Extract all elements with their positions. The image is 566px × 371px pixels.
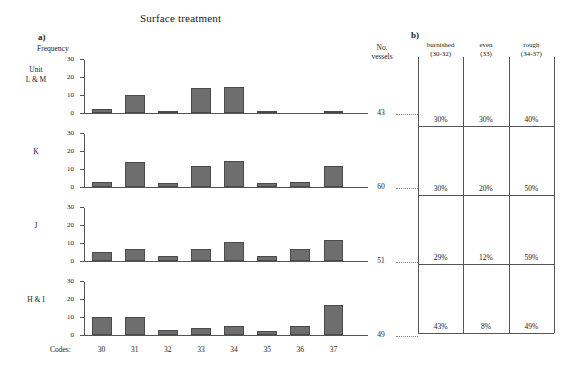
column-header-name: even — [463, 41, 508, 50]
bar — [290, 182, 310, 187]
x-axis-line — [84, 335, 368, 336]
page-title: Surface treatment — [140, 12, 221, 24]
column-header-name: burnished — [418, 41, 463, 50]
y-tick: 30 — [80, 207, 84, 208]
connector-line — [396, 336, 418, 337]
percentage-cell: 12% — [463, 253, 508, 262]
bar-slot — [118, 208, 151, 261]
plot-area: 0102030 — [84, 208, 350, 262]
x-axis-line — [84, 261, 368, 262]
table-row: 30%30%40% — [418, 115, 554, 124]
y-tick: 30 — [80, 281, 84, 282]
bar-chart-unit-0: UnitL & M010203043 — [0, 57, 410, 119]
bar — [92, 252, 112, 261]
bar — [158, 111, 178, 113]
y-tick-label: 10 — [58, 169, 74, 170]
codes-label: Codes: — [50, 345, 71, 354]
y-tick-label: 0 — [58, 113, 74, 114]
y-tick: 0 — [80, 187, 84, 188]
bar-slot — [118, 282, 151, 335]
bar — [92, 182, 112, 187]
x-tick-label: 37 — [317, 345, 350, 354]
bar-slot — [85, 282, 118, 335]
percentage-cell: 50% — [509, 184, 554, 193]
unit-row-label-line1: K — [14, 147, 58, 157]
y-tick: 0 — [80, 335, 84, 336]
bar — [125, 249, 145, 261]
bar-slot — [317, 134, 350, 187]
percentage-cell: 30% — [418, 184, 463, 193]
bar-slot — [317, 208, 350, 261]
percentage-cell: 49% — [509, 322, 554, 331]
y-tick-label: 20 — [58, 225, 74, 226]
y-tick: 10 — [80, 169, 84, 170]
y-tick-label: 30 — [58, 281, 74, 282]
y-tick: 0 — [80, 113, 84, 114]
y-tick-label: 30 — [58, 207, 74, 208]
bar-slot — [317, 60, 350, 113]
bar-group — [85, 134, 350, 187]
bar-slot — [251, 208, 284, 261]
y-tick: 20 — [80, 77, 84, 78]
percentage-cell: 40% — [509, 115, 554, 124]
unit-row-label: J — [14, 221, 58, 231]
connector-line — [396, 188, 418, 189]
connector-line — [396, 262, 418, 263]
bar — [324, 111, 344, 113]
bar — [257, 331, 277, 335]
bar-slot — [284, 60, 317, 113]
bar — [191, 328, 211, 335]
y-tick: 30 — [80, 59, 84, 60]
no-vessels-value: 49 — [366, 330, 396, 339]
panel-b-table: 30%30%40%30%20%50%29%12%59%43%8%49% — [418, 57, 554, 333]
codes-axis: 3031323334353637 — [85, 345, 350, 354]
y-tick-label: 20 — [58, 299, 74, 300]
bar — [92, 109, 112, 113]
y-tick: 10 — [80, 95, 84, 96]
unit-row-label: K — [14, 147, 58, 157]
table-horizontal-rule — [418, 195, 554, 196]
y-tick: 20 — [80, 151, 84, 152]
y-tick: 20 — [80, 225, 84, 226]
y-tick: 20 — [80, 299, 84, 300]
x-tick-label: 33 — [184, 345, 217, 354]
unit-row-label: UnitL & M — [14, 65, 58, 85]
bar — [92, 317, 112, 335]
plot-area: 0102030 — [84, 282, 350, 336]
bar — [158, 256, 178, 261]
y-tick-label: 10 — [58, 317, 74, 318]
table-row: 29%12%59% — [418, 253, 554, 262]
bar-slot — [85, 60, 118, 113]
percentage-cell: 30% — [418, 115, 463, 124]
x-tick-label: 35 — [251, 345, 284, 354]
y-tick-label: 0 — [58, 335, 74, 336]
bar-chart-unit-3: H & I010203049 — [0, 279, 410, 341]
x-tick-label: 34 — [218, 345, 251, 354]
bar — [224, 326, 244, 335]
column-header-name: rough — [509, 41, 554, 50]
bar — [125, 317, 145, 335]
table-row: 43%8%49% — [418, 322, 554, 331]
bar-slot — [151, 208, 184, 261]
table-horizontal-rule — [418, 126, 554, 127]
no-vessels-header-line1: No. — [365, 43, 399, 52]
percentage-cell: 8% — [463, 322, 508, 331]
percentage-cell: 30% — [463, 115, 508, 124]
unit-row-label: H & I — [14, 295, 58, 305]
unit-row-label-line1: J — [14, 221, 58, 231]
no-vessels-value: 43 — [366, 108, 396, 117]
percentage-cell: 29% — [418, 253, 463, 262]
bar-slot — [218, 60, 251, 113]
bar-slot — [218, 282, 251, 335]
y-tick-label: 10 — [58, 95, 74, 96]
x-tick-label: 32 — [151, 345, 184, 354]
y-tick-label: 30 — [58, 59, 74, 60]
table-horizontal-rule — [418, 333, 554, 334]
bar-slot — [151, 60, 184, 113]
bar — [257, 183, 277, 187]
bar-slot — [218, 208, 251, 261]
bar-slot — [184, 208, 217, 261]
bar-group — [85, 60, 350, 113]
no-vessels-value: 51 — [366, 256, 396, 265]
x-tick-label: 30 — [85, 345, 118, 354]
